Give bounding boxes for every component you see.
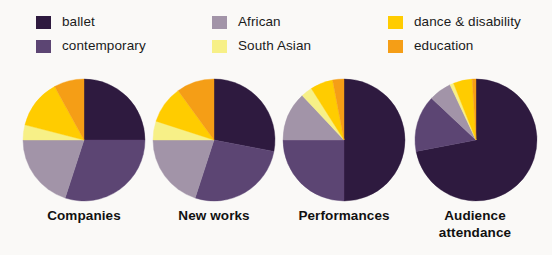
legend-item-dance-disability: dance & disability bbox=[388, 12, 552, 32]
pie-svg bbox=[22, 78, 146, 202]
legend-column-1: ballet contemporary bbox=[36, 12, 212, 64]
chart-legend: ballet contemporary African South Asian … bbox=[0, 12, 552, 64]
pie-svg bbox=[414, 78, 538, 202]
pie-caption-companies: Companies bbox=[9, 208, 159, 225]
legend-label-ballet: ballet bbox=[62, 15, 95, 29]
legend-swatch-education-icon bbox=[388, 40, 403, 53]
pie-caption-line2: attendance bbox=[400, 225, 550, 242]
pie-slice bbox=[214, 79, 275, 151]
legend-swatch-dance-disability-icon bbox=[388, 16, 403, 29]
legend-swatch-african-icon bbox=[212, 16, 227, 29]
legend-column-3: dance & disability education bbox=[388, 12, 552, 64]
legend-label-african: African bbox=[238, 15, 281, 29]
legend-item-ballet: ballet bbox=[36, 12, 212, 32]
legend-item-education: education bbox=[388, 36, 552, 56]
pie-chart-performances bbox=[282, 78, 406, 204]
pie-captions: Companies New works Performances Audienc… bbox=[0, 208, 552, 255]
legend-item-african: African bbox=[212, 12, 388, 32]
legend-column-2: African South Asian bbox=[212, 12, 388, 64]
legend-swatch-contemporary-icon bbox=[36, 40, 51, 53]
pie-caption-new-works: New works bbox=[139, 208, 289, 225]
legend-label-education: education bbox=[414, 39, 473, 53]
legend-label-south-asian: South Asian bbox=[238, 39, 311, 53]
pie-svg bbox=[152, 78, 276, 202]
pie-caption-line1: Performances bbox=[269, 208, 419, 225]
pie-slice bbox=[344, 79, 405, 201]
pie-slice bbox=[283, 140, 344, 201]
pie-caption-audience-attendance: Audience attendance bbox=[400, 208, 550, 242]
pie-chart-companies bbox=[22, 78, 146, 204]
pie-caption-line1: Audience bbox=[400, 208, 550, 225]
legend-item-contemporary: contemporary bbox=[36, 36, 212, 56]
legend-swatch-south-asian-icon bbox=[212, 40, 227, 53]
pie-caption-line1: Companies bbox=[9, 208, 159, 225]
legend-item-south-asian: South Asian bbox=[212, 36, 388, 56]
pie-caption-line1: New works bbox=[139, 208, 289, 225]
pie-chart-new-works bbox=[152, 78, 276, 204]
pie-chart-audience-attendance bbox=[414, 78, 538, 204]
legend-label-contemporary: contemporary bbox=[62, 39, 146, 53]
legend-label-dance-disability: dance & disability bbox=[414, 15, 521, 29]
pie-slice bbox=[84, 79, 145, 140]
pie-svg bbox=[282, 78, 406, 202]
pie-chart-row bbox=[0, 78, 552, 208]
pie-caption-performances: Performances bbox=[269, 208, 419, 225]
legend-swatch-ballet-icon bbox=[36, 16, 51, 29]
